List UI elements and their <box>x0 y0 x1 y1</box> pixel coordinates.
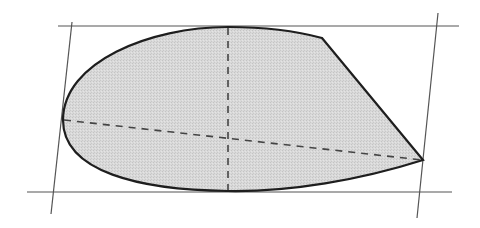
frame-right-line <box>417 13 438 218</box>
diagram-svg <box>0 0 480 228</box>
teardrop-shape <box>63 27 423 191</box>
diagram-canvas <box>0 0 480 228</box>
